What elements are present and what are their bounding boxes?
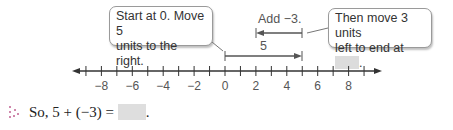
arrow-left-icon	[256, 30, 264, 36]
svg-text:6: 6	[314, 79, 321, 93]
add-label: Add −3.	[258, 12, 301, 26]
svg-text:−2: −2	[187, 79, 201, 93]
equation-text: So, 5 + (−3) =	[29, 104, 114, 120]
five-label: 5	[260, 39, 267, 53]
svg-text:4: 4	[283, 79, 290, 93]
svg-text:−6: −6	[125, 79, 139, 93]
arrow-right-icon	[294, 53, 302, 59]
dots-icon	[6, 104, 26, 124]
svg-text:0: 0	[222, 79, 229, 93]
equation: So, 5 + (−3) = .	[29, 104, 149, 121]
equation-answer-blank	[118, 104, 146, 120]
svg-text:2: 2	[253, 79, 260, 93]
svg-text:−8: −8	[95, 79, 109, 93]
svg-text:8: 8	[345, 79, 352, 93]
svg-text:−4: −4	[156, 79, 170, 93]
